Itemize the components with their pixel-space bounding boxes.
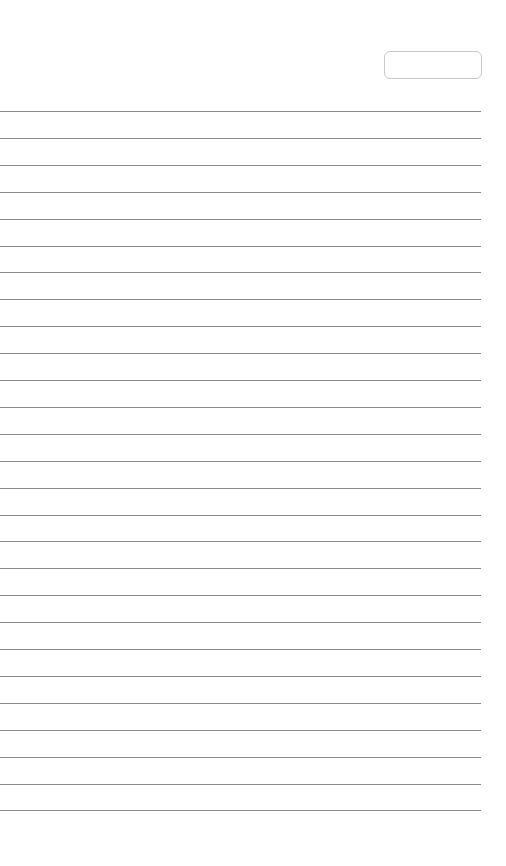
ruled-line [0,784,481,785]
ruled-line [0,541,481,542]
ruled-line [0,622,481,623]
ruled-line [0,111,481,112]
ruled-line [0,730,481,731]
ruled-line [0,246,481,247]
ruled-lines [0,0,506,866]
ruled-line [0,138,481,139]
ruled-line [0,192,481,193]
ruled-line [0,676,481,677]
ruled-line [0,219,481,220]
ruled-line [0,595,481,596]
ruled-line [0,165,481,166]
ruled-line [0,461,481,462]
ruled-line [0,810,481,811]
ruled-line [0,272,481,273]
ruled-line [0,407,481,408]
ruled-line [0,703,481,704]
ruled-line [0,649,481,650]
ruled-line [0,434,481,435]
ruled-line [0,757,481,758]
ruled-line [0,515,481,516]
ruled-line [0,380,481,381]
ruled-line [0,326,481,327]
ruled-line [0,353,481,354]
ruled-line [0,568,481,569]
ruled-line [0,488,481,489]
ruled-line [0,299,481,300]
